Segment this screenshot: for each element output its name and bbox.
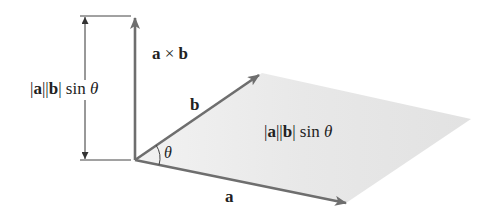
vector-b-label: b — [190, 95, 199, 114]
vector-a-label: a — [225, 187, 234, 206]
cross-product-label: a × b — [152, 44, 188, 63]
area-label: |a||b| sin θ — [264, 122, 332, 141]
cross-product-diagram: a × b |a||b| sin θ |a||b| sin θ b a θ — [0, 0, 496, 219]
angle-theta-label: θ — [164, 144, 172, 161]
height-label: |a||b| sin θ — [30, 79, 98, 98]
